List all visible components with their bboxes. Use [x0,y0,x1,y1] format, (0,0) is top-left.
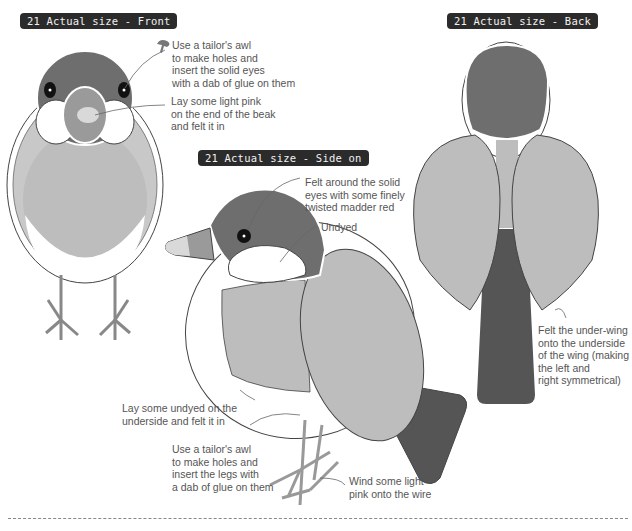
front-legs [46,275,130,340]
note-felt-around-eyes: Felt around the solid eyes with some fin… [305,176,405,214]
title-back: 21 Actual size - Back [447,13,598,29]
note-legs: Use a tailor's awl to make holes and ins… [172,443,274,493]
side-beak-pink [165,236,190,256]
side-breast [222,280,310,392]
note-wire: Wind some light pink onto the wire [349,475,431,500]
note-under-wing: Felt the under-wing onto the underside o… [538,324,629,387]
bird-illustrations [0,0,632,531]
note-beak-pink: Lay some light pink on the end of the be… [171,95,276,133]
title-side: 21 Actual size - Side on [198,150,369,166]
note-undyed: Undyed [321,221,357,234]
title-front: 21 Actual size - Front [20,13,177,29]
note-underside: Lay some undyed on the underside and fel… [122,402,237,427]
note-eyes-front: Use a tailor's awl to make holes and ins… [172,39,295,89]
back-head [466,45,548,139]
cut-line-divider [8,518,628,519]
front-bird [7,40,170,340]
